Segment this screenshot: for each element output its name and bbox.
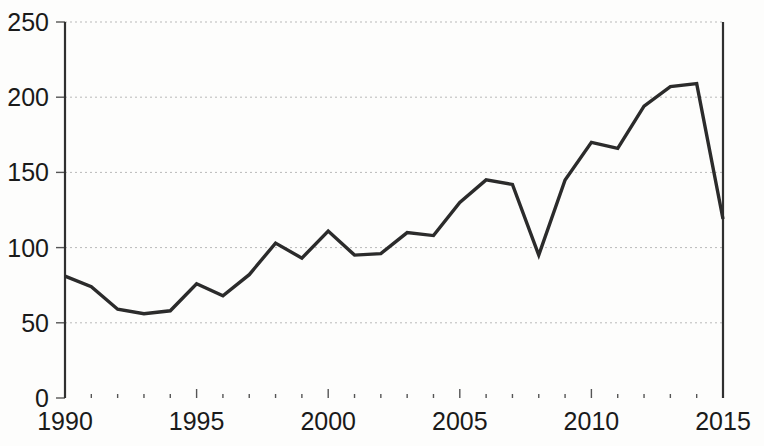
axis-frame (65, 22, 723, 398)
y-axis-tick-label: 250 (7, 8, 49, 36)
data-series-group (65, 84, 723, 314)
y-axis-tick-label: 200 (7, 83, 49, 111)
x-axis-tick-label: 2015 (695, 407, 751, 435)
y-axis-tick-label: 150 (7, 158, 49, 186)
x-axis-tick-label: 1990 (37, 407, 93, 435)
y-axis-tick-label: 50 (21, 309, 49, 337)
x-axis-tick-label: 2005 (432, 407, 488, 435)
data-line-series-1 (65, 84, 723, 314)
x-axis-labels-group: 199019952000200520102015 (37, 407, 751, 435)
chart-container: 050100150200250 199019952000200520102015 (0, 0, 764, 446)
y-axis-tick-label: 100 (7, 234, 49, 262)
line-chart: 050100150200250 199019952000200520102015 (0, 0, 764, 446)
x-axis-tick-label: 2000 (300, 407, 356, 435)
y-axis-labels-group: 050100150200250 (7, 8, 49, 412)
tick-marks-group (56, 22, 723, 398)
gridlines-group (65, 22, 723, 323)
axes-group (65, 22, 723, 398)
x-axis-tick-label: 1995 (169, 407, 225, 435)
x-axis-tick-label: 2010 (564, 407, 620, 435)
